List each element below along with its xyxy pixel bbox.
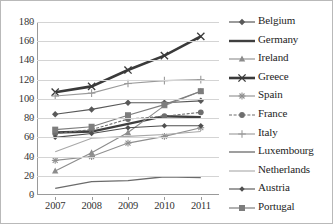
y-axis: 020406080100120140160180 xyxy=(1,22,34,195)
y-axis-tick-label: 100 xyxy=(4,94,34,104)
data-point-marker-diamond xyxy=(125,100,131,106)
y-axis-tick-label: 20 xyxy=(4,171,34,181)
data-point-marker-star xyxy=(52,157,59,164)
legend-label: Belgium xyxy=(258,14,295,26)
data-point-marker-diamond xyxy=(52,111,58,117)
legend-key-spain-icon xyxy=(229,88,255,100)
legend-item-germany[interactable]: Germany xyxy=(229,30,298,48)
y-axis-tick-mark xyxy=(31,80,34,81)
data-point-marker-circle xyxy=(198,109,204,115)
legend-label: France xyxy=(258,107,287,119)
y-axis-tick-mark xyxy=(31,195,34,196)
gridline xyxy=(37,99,219,100)
gridline xyxy=(37,80,219,81)
x-axis: 20072008200920102011 xyxy=(37,197,219,213)
legend-key-netherlands-icon xyxy=(229,163,255,175)
series-line-luxembourg xyxy=(55,177,201,189)
legend-item-netherlands[interactable]: Netherlands xyxy=(229,160,310,178)
legend-key-germany-icon xyxy=(229,33,255,45)
legend-label: Spain xyxy=(258,88,283,100)
x-axis-tick-mark xyxy=(128,197,129,200)
y-axis-tick-mark xyxy=(31,137,34,138)
legend-key-belgium-icon xyxy=(229,14,255,26)
gridline xyxy=(37,118,219,119)
data-point-marker-square xyxy=(52,127,58,133)
y-axis-tick-mark xyxy=(31,118,34,119)
data-point-marker-triangle xyxy=(52,168,58,174)
x-axis-tick-label: 2010 xyxy=(149,200,179,212)
y-axis-tick-label: 160 xyxy=(4,36,34,46)
legend-key-greece-icon xyxy=(229,70,255,82)
legend-item-france[interactable]: France xyxy=(229,104,287,122)
chart-container: 020406080100120140160180 200720082009201… xyxy=(0,0,333,224)
legend-item-austria[interactable]: Austria xyxy=(229,178,290,196)
x-axis-tick-mark xyxy=(55,197,56,200)
x-axis-tick-mark xyxy=(92,197,93,200)
legend-label: Greece xyxy=(258,70,289,82)
data-point-marker-plus xyxy=(124,80,132,88)
legend-key-italy-icon xyxy=(229,126,255,138)
gridline xyxy=(37,22,219,23)
series-lines xyxy=(37,22,219,195)
x-axis-tick-label: 2011 xyxy=(186,200,216,212)
gridline xyxy=(37,157,219,158)
data-point-marker-circle xyxy=(239,112,245,118)
legend-label: Ireland xyxy=(258,51,288,63)
y-axis-tick-mark xyxy=(31,60,34,61)
data-point-marker-square xyxy=(161,102,167,108)
y-axis-tick-label: 80 xyxy=(4,113,34,123)
legend-item-spain[interactable]: Spain xyxy=(229,85,283,103)
data-point-marker-diamond-small xyxy=(162,123,167,128)
plot-area xyxy=(37,22,219,195)
data-point-marker-diamond-small xyxy=(125,125,130,130)
legend-item-luxembourg[interactable]: Luxembourg xyxy=(229,141,314,159)
x-axis-tick-label: 2009 xyxy=(113,200,143,212)
legend-item-greece[interactable]: Greece xyxy=(229,67,289,85)
gridline xyxy=(37,60,219,61)
data-point-marker-square xyxy=(239,205,245,211)
y-axis-tick-label: 0 xyxy=(4,190,34,200)
legend-key-portugal-icon xyxy=(229,200,255,212)
legend-label: Austria xyxy=(258,181,290,193)
y-axis-tick-label: 60 xyxy=(4,132,34,142)
y-axis-tick-mark xyxy=(31,22,34,23)
x-axis-tick-label: 2008 xyxy=(77,200,107,212)
y-axis-tick-label: 40 xyxy=(4,152,34,162)
y-axis-tick-label: 180 xyxy=(4,17,34,27)
gridline xyxy=(37,41,219,42)
y-axis-tick-mark xyxy=(31,157,34,158)
data-point-marker-star xyxy=(239,93,246,100)
data-point-marker-plus xyxy=(238,130,246,138)
y-axis-tick-mark xyxy=(31,176,34,177)
legend-key-ireland-icon xyxy=(229,51,255,63)
y-axis-tick-label: 140 xyxy=(4,55,34,65)
data-point-marker-diamond-small xyxy=(239,187,244,192)
data-point-marker-plus xyxy=(88,89,96,97)
legend-key-luxembourg-icon xyxy=(229,144,255,156)
data-point-marker-diamond xyxy=(88,106,94,112)
gridline xyxy=(37,137,219,138)
legend-label: Germany xyxy=(258,33,298,45)
data-point-marker-star xyxy=(125,140,132,147)
legend-key-austria-icon xyxy=(229,181,255,193)
legend-key-france-icon xyxy=(229,107,255,119)
legend-item-italy[interactable]: Italy xyxy=(229,123,278,141)
y-axis-tick-mark xyxy=(31,99,34,100)
data-point-marker-diamond xyxy=(239,19,245,25)
y-axis-tick-label: 120 xyxy=(4,75,34,85)
legend-label: Portugal xyxy=(258,200,294,212)
legend-item-ireland[interactable]: Ireland xyxy=(229,48,288,66)
legend-label: Netherlands xyxy=(258,163,310,175)
legend-item-belgium[interactable]: Belgium xyxy=(229,11,295,29)
gridline xyxy=(37,176,219,177)
legend-label: Italy xyxy=(258,126,278,138)
data-point-marker-square xyxy=(198,88,204,94)
x-axis-tick-mark xyxy=(164,197,165,200)
legend-label: Luxembourg xyxy=(258,144,314,156)
x-axis-tick-label: 2007 xyxy=(40,200,70,212)
legend-item-portugal[interactable]: Portugal xyxy=(229,197,294,215)
y-axis-tick-mark xyxy=(31,41,34,42)
x-axis-tick-mark xyxy=(201,197,202,200)
data-point-marker-square xyxy=(89,124,95,130)
chart-legend: BelgiumGermanyIrelandGreeceSpainFranceIt… xyxy=(229,11,333,217)
